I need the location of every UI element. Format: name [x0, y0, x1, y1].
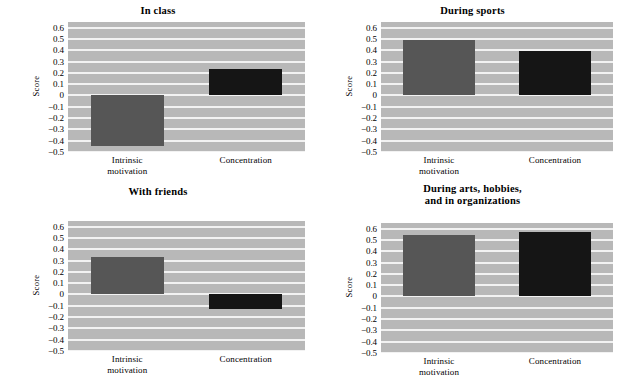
- y-tick-label: −0.4: [48, 136, 64, 145]
- gridline: [68, 248, 305, 250]
- y-tick-label: −0.2: [48, 114, 64, 123]
- y-tick-label: 0.3: [53, 256, 64, 265]
- y-axis-label: Score: [31, 56, 41, 116]
- y-tick-label: −0.2: [361, 114, 377, 123]
- plot-wrap: 0.60.50.40.30.20.10−0.1−0.2−0.3−0.4−0.5S…: [316, 0, 629, 181]
- gridline: [381, 228, 613, 230]
- y-tick-label: −0.1: [48, 102, 64, 111]
- y-axis-ticks: 0.60.50.40.30.20.10−0.1−0.2−0.3−0.4−0.5: [351, 223, 377, 353]
- y-tick-label: −0.2: [48, 313, 64, 322]
- y-tick-label: −0.5: [361, 148, 377, 157]
- y-tick-label: 0.6: [366, 23, 377, 32]
- y-axis-ticks: 0.60.50.40.30.20.10−0.1−0.2−0.3−0.4−0.5: [351, 22, 377, 152]
- y-axis-ticks: 0.60.50.40.30.20.10−0.1−0.2−0.3−0.4−0.5: [38, 22, 64, 152]
- gridline: [381, 341, 613, 343]
- gridline: [68, 316, 305, 318]
- gridline: [68, 38, 305, 40]
- y-tick-label: −0.4: [361, 337, 377, 346]
- y-tick-label: 0: [373, 91, 377, 100]
- plot-wrap: 0.60.50.40.30.20.10−0.1−0.2−0.3−0.4−0.5S…: [316, 181, 629, 363]
- gridline: [68, 49, 305, 51]
- y-tick-label: 0.2: [366, 68, 377, 77]
- plot-area: [68, 22, 305, 152]
- y-tick-label: 0: [373, 292, 377, 301]
- y-tick-label: 0.5: [366, 235, 377, 244]
- y-tick-label: 0.1: [366, 281, 377, 290]
- y-tick-label: −0.3: [361, 326, 377, 335]
- gridline: [68, 226, 305, 228]
- y-axis-label: Score: [344, 257, 354, 317]
- gridline: [381, 307, 613, 309]
- y-tick-label: −0.3: [48, 324, 64, 333]
- y-tick-label: −0.3: [361, 125, 377, 134]
- y-tick-label: 0.6: [53, 23, 64, 32]
- y-tick-label: −0.5: [361, 349, 377, 358]
- bar-intrinsic-motivation: [403, 235, 475, 296]
- gridline: [68, 61, 305, 63]
- x-tick-label: Intrinsic motivation: [381, 356, 497, 377]
- chart-panel-during-sports: During sports 0.60.50.40.30.20.10−0.1−0.…: [316, 0, 629, 181]
- chart-panel-during-arts-hobbies: During arts, hobbies, and in organizatio…: [316, 181, 629, 363]
- gridline: [381, 27, 613, 29]
- bar-concentration: [209, 294, 282, 309]
- y-axis-label: Score: [344, 56, 354, 116]
- y-tick-label: 0.6: [366, 224, 377, 233]
- y-tick-label: 0.5: [53, 34, 64, 43]
- x-tick-label: Intrinsic motivation: [68, 155, 187, 176]
- y-tick-label: −0.2: [361, 315, 377, 324]
- plot-wrap: 0.60.50.40.30.20.10−0.1−0.2−0.3−0.4−0.5S…: [0, 0, 316, 181]
- gridline: [381, 106, 613, 108]
- y-tick-label: −0.3: [48, 125, 64, 134]
- y-tick-label: 0.2: [53, 267, 64, 276]
- y-tick-label: 0.6: [53, 222, 64, 231]
- y-tick-label: 0.4: [53, 245, 64, 254]
- gridline: [381, 128, 613, 130]
- y-tick-label: −0.1: [361, 303, 377, 312]
- y-axis-ticks: 0.60.50.40.30.20.10−0.1−0.2−0.3−0.4−0.5: [38, 221, 64, 351]
- y-tick-label: 0.1: [53, 80, 64, 89]
- gridline: [68, 350, 305, 351]
- bar-concentration: [209, 69, 282, 95]
- chart-panel-with-friends: With friends 0.60.50.40.30.20.10−0.1−0.2…: [0, 181, 316, 363]
- bar-concentration: [519, 232, 591, 296]
- plot-area: [68, 221, 305, 351]
- x-tick-label: Concentration: [497, 356, 613, 367]
- plot-wrap: 0.60.50.40.30.20.10−0.1−0.2−0.3−0.4−0.5S…: [0, 181, 316, 363]
- gridline: [68, 151, 305, 152]
- gridline: [381, 352, 613, 353]
- bar-intrinsic-motivation: [91, 95, 164, 146]
- y-tick-label: 0.3: [53, 57, 64, 66]
- x-tick-label: Intrinsic motivation: [68, 354, 187, 375]
- y-axis-label: Score: [31, 255, 41, 315]
- y-tick-label: 0: [60, 290, 64, 299]
- y-tick-label: 0.4: [53, 46, 64, 55]
- y-tick-label: −0.4: [48, 335, 64, 344]
- gridline: [381, 318, 613, 320]
- bar-intrinsic-motivation: [91, 257, 164, 294]
- y-tick-label: −0.1: [48, 301, 64, 310]
- gridline: [68, 27, 305, 29]
- gridline: [381, 329, 613, 331]
- bar-intrinsic-motivation: [403, 40, 475, 95]
- x-tick-label: Concentration: [497, 155, 613, 166]
- gridline: [381, 140, 613, 142]
- gridline: [68, 327, 305, 329]
- x-tick-label: Concentration: [187, 155, 306, 166]
- gridline: [381, 151, 613, 152]
- plot-area: [381, 22, 613, 152]
- y-tick-label: 0.5: [53, 233, 64, 242]
- gridline: [68, 237, 305, 239]
- y-tick-label: −0.5: [48, 347, 64, 356]
- y-tick-label: 0.4: [366, 46, 377, 55]
- y-tick-label: −0.1: [361, 102, 377, 111]
- gridline: [381, 117, 613, 119]
- bar-concentration: [519, 51, 591, 95]
- gridline: [68, 339, 305, 341]
- y-tick-label: −0.4: [361, 136, 377, 145]
- y-tick-label: 0.3: [366, 57, 377, 66]
- y-tick-label: 0.1: [366, 80, 377, 89]
- chart-panel-in-class: In class 0.60.50.40.30.20.10−0.1−0.2−0.3…: [0, 0, 316, 181]
- plot-area: [381, 223, 613, 353]
- x-tick-label: Concentration: [187, 354, 306, 365]
